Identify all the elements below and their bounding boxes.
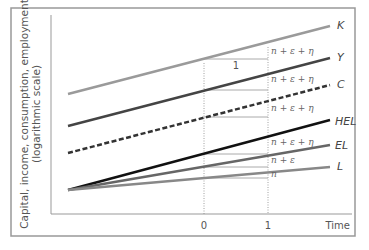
series-label-HEL: HEL <box>335 115 356 128</box>
step-unit-label: 1 <box>233 60 239 71</box>
series-label-Y: Y <box>337 51 345 64</box>
growth-label-C: n + ε + η <box>271 103 314 113</box>
x-tick-0: 0 <box>201 220 207 231</box>
growth-label-HEL: n + ε + η <box>271 137 314 147</box>
line-EL <box>68 145 330 190</box>
x-tick-1: 1 <box>265 220 271 231</box>
x-axis-label: Time <box>325 220 350 231</box>
line-Y <box>68 58 330 126</box>
y-axis-label: Capital, income, consumption, employment <box>18 0 30 229</box>
growth-diagram: Capital, income, consumption, employment… <box>0 0 369 250</box>
growth-label-Y: n + ε + η <box>271 74 314 84</box>
series-label-K: K <box>337 19 345 32</box>
series-label-C: C <box>337 78 345 91</box>
y-axis-label-scale: (logarithmic scale) <box>30 65 42 163</box>
growth-label-EL: n + ε <box>271 155 295 165</box>
growth-label-K: n + ε + η <box>271 46 314 56</box>
growth-label-L: n <box>271 169 277 179</box>
outer-frame <box>11 8 355 236</box>
series-label-L: L <box>337 160 343 173</box>
series-label-EL: EL <box>335 139 348 152</box>
